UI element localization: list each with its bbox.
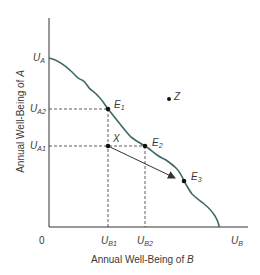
label-e2: E2 [152, 138, 163, 149]
y-axis-title: Annual Well-Being of A [15, 52, 26, 192]
point-x [106, 144, 111, 149]
label-e3-main: E [191, 171, 198, 182]
utility-frontier-curve [49, 58, 219, 227]
label-ua2-sub: A2 [37, 108, 46, 115]
label-z-main: Z [174, 91, 180, 102]
label-e1-main: E [114, 99, 121, 110]
label-x: X [113, 134, 120, 144]
label-ub1: UB1 [101, 236, 117, 247]
label-e2-sub: 2 [159, 142, 163, 149]
x-axis-title-text: Annual Well-Being of [91, 254, 187, 265]
label-z: Z [174, 92, 180, 102]
label-ua2: UA2 [30, 104, 46, 115]
label-ub2-sub: B2 [144, 240, 153, 247]
label-e1: E1 [114, 100, 125, 111]
label-ub1-sub: B1 [108, 240, 117, 247]
movement-arrow [108, 146, 175, 178]
label-x-main: X [113, 133, 120, 144]
label-e1-sub: 1 [121, 104, 125, 111]
point-e3 [182, 179, 187, 184]
point-e1 [106, 107, 111, 112]
label-ub: UB [231, 236, 243, 247]
point-z [167, 97, 171, 101]
label-ua1: UA1 [30, 141, 46, 152]
label-e3-sub: 3 [198, 176, 202, 183]
y-axis-title-var: A [15, 70, 26, 77]
diagram-canvas [0, 0, 260, 275]
point-e2 [143, 144, 148, 149]
label-e2-main: E [152, 137, 159, 148]
label-ua: UA [33, 53, 45, 64]
label-e3: E3 [191, 172, 202, 183]
label-ua-sub: A [40, 57, 45, 64]
dashed-guides [49, 109, 145, 227]
label-ub-sub: B [238, 240, 243, 247]
label-ub2: UB2 [137, 236, 153, 247]
y-axis-title-text: Annual Well-Being of [15, 77, 26, 173]
upf-diagram: Annual Well-Being of A UA UA2 UA1 0 UB1 … [0, 0, 260, 275]
label-ua1-sub: A1 [37, 145, 46, 152]
x-axis-title-var: B [187, 254, 194, 265]
label-origin: 0 [39, 236, 45, 246]
x-axis-title: Annual Well-Being of B [91, 254, 194, 265]
